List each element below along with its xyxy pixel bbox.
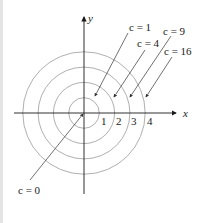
label-c-16: c = 16 xyxy=(164,45,192,57)
label-c-0: c = 0 xyxy=(18,184,41,196)
leader-c-16 xyxy=(146,57,172,97)
label-c-9: c = 9 xyxy=(163,25,186,37)
label-c-4: c = 4 xyxy=(137,37,160,49)
tick-1: 1 xyxy=(101,115,107,127)
leader-c-0 xyxy=(30,114,83,180)
y-axis-label: y xyxy=(87,12,93,24)
level-curve-diagram: x y 1 2 3 4 c = 1 c = 4 c = 9 c = 16 c =… xyxy=(0,0,199,223)
tick-4: 4 xyxy=(147,115,153,127)
leader-c-1 xyxy=(95,33,128,96)
x-axis-label: x xyxy=(182,107,188,119)
tick-3: 3 xyxy=(131,115,137,127)
tick-2: 2 xyxy=(116,115,122,127)
label-c-1: c = 1 xyxy=(129,21,151,33)
